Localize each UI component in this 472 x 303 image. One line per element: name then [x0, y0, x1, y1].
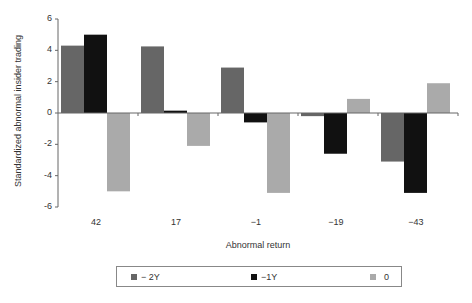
y-tick-label: 2 — [36, 76, 52, 86]
x-tick-label: 42 — [76, 217, 116, 227]
legend-label: 0 — [384, 272, 389, 282]
x-axis-label: Abnormal return — [158, 240, 358, 250]
y-tick-label: -2 — [36, 138, 52, 148]
bar — [187, 113, 210, 146]
bars-group — [61, 35, 450, 193]
legend-item-minus-1y: −1Y — [251, 272, 277, 282]
bar — [267, 113, 290, 193]
y-axis-label: Standardized abnormal insider trading — [13, 31, 23, 191]
legend-label: − 2Y — [141, 272, 160, 282]
legend-item-zero: 0 — [370, 272, 389, 282]
legend-swatch-minus-1y — [251, 274, 257, 280]
x-tick-label: −1 — [236, 217, 276, 227]
bar — [244, 113, 267, 122]
bar — [324, 113, 347, 154]
bar — [404, 113, 427, 193]
y-tick-label: -4 — [36, 170, 52, 180]
y-tick-label: -6 — [36, 201, 52, 211]
bar — [221, 68, 244, 113]
legend-label: −1Y — [261, 272, 277, 282]
x-tick-label: −19 — [316, 217, 356, 227]
bar — [427, 83, 450, 113]
bar — [141, 46, 164, 113]
legend-swatch-minus-2y — [131, 274, 137, 280]
y-tick-label: 4 — [36, 44, 52, 54]
legend-swatch-zero — [370, 274, 376, 280]
bar-chart — [0, 0, 472, 303]
legend-item-minus-2y: − 2Y — [131, 272, 160, 282]
bar — [107, 113, 130, 191]
y-tick-label: 0 — [36, 107, 52, 117]
y-tick-label: 6 — [36, 13, 52, 23]
bar — [84, 35, 107, 113]
x-tick-label: −43 — [396, 217, 436, 227]
bar — [381, 113, 404, 162]
legend: − 2Y −1Y 0 — [116, 266, 402, 287]
x-tick-label: 17 — [156, 217, 196, 227]
bar — [61, 46, 84, 113]
bar — [347, 99, 370, 113]
